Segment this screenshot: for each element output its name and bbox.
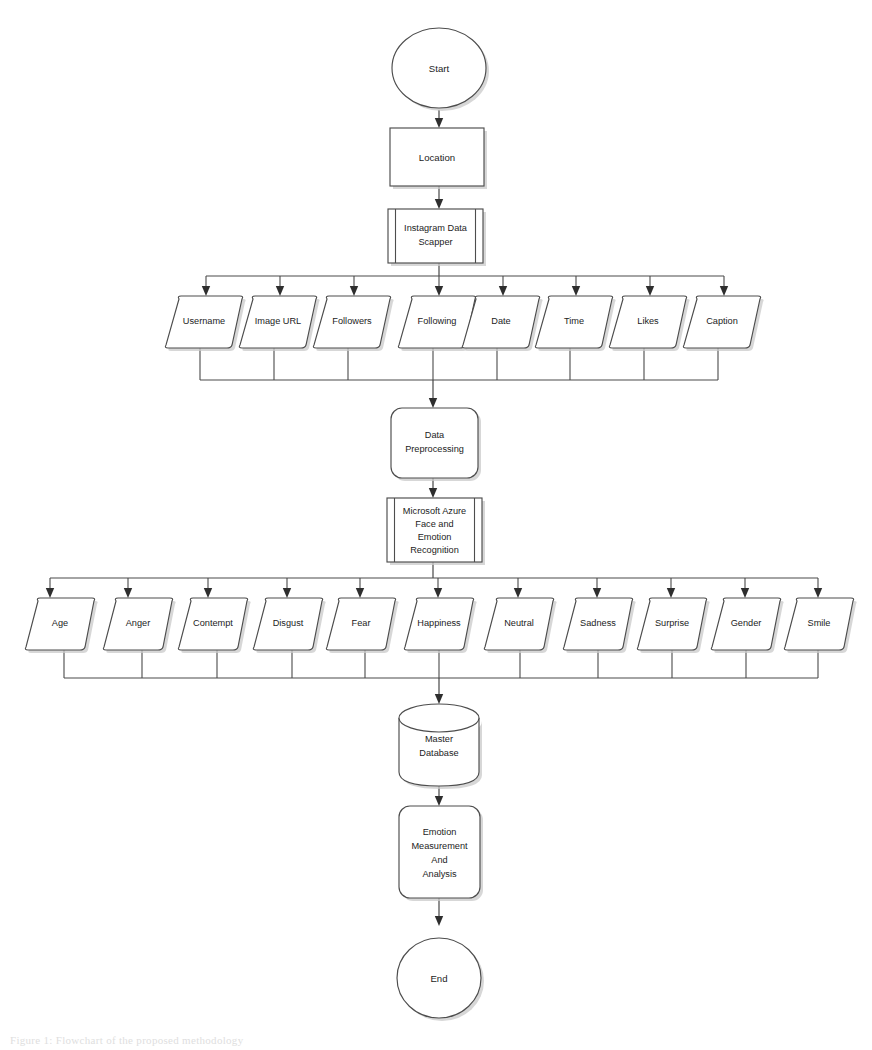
field-node-likes[interactable]: Likes [609, 296, 689, 351]
arrowhead-field-7 [720, 286, 728, 296]
attr-5-label: Happiness [417, 618, 461, 628]
analysis-label-line1: Emotion [423, 827, 457, 837]
attr-node-fear[interactable]: Fear [326, 598, 398, 653]
azure-label-line3: Emotion [418, 532, 452, 542]
attr-0-label: Age [52, 618, 68, 628]
attr-node-smile[interactable]: Smile [784, 598, 856, 653]
attr-node-neutral[interactable]: Neutral [484, 598, 556, 653]
start-label: Start [429, 63, 450, 74]
arrowhead-database [435, 694, 443, 704]
attr-10-label: Smile [808, 618, 831, 628]
arrowhead-location [435, 118, 443, 128]
arrowhead-analysis [435, 796, 443, 806]
analysis-label-line2: Measurement [411, 841, 468, 851]
arrowhead-end [435, 916, 443, 926]
analysis-rect [399, 806, 480, 898]
arrowhead-preprocessing [429, 398, 437, 408]
arrowhead-attr-9 [741, 588, 749, 598]
node-data-preprocessing[interactable]: Data Preprocessing [391, 408, 481, 481]
scrapper-label-line1: Instagram Data [404, 223, 468, 233]
arrowhead-attr-10 [814, 588, 822, 598]
attr-node-age[interactable]: Age [25, 598, 97, 653]
attr-6-label: Neutral [504, 618, 534, 628]
field-7-label: Caption [706, 316, 738, 326]
field-4-label: Date [491, 316, 510, 326]
arrowhead-field-0 [202, 286, 210, 296]
arrowhead-attr-3 [283, 588, 291, 598]
arrowhead-attr-2 [204, 588, 212, 598]
node-start[interactable]: Start [392, 28, 489, 111]
flowchart-canvas: Start Location Instagram Data Scapper Us… [0, 0, 872, 1050]
field-node-image-url[interactable]: Image URL [239, 296, 319, 351]
field-0-label: Username [183, 316, 225, 326]
attr-7-label: Sadness [580, 618, 616, 628]
field-5-label: Time [564, 316, 584, 326]
arrowhead-attr-7 [593, 588, 601, 598]
arrowhead-attr-0 [46, 588, 54, 598]
field-6-label: Likes [637, 316, 659, 326]
arrowhead-attr-5 [434, 588, 442, 598]
node-instagram-scrapper[interactable]: Instagram Data Scapper [388, 209, 486, 266]
database-top-ellipse [399, 704, 479, 732]
attr-2-label: Contempt [193, 618, 233, 628]
attr-node-surprise[interactable]: Surprise [637, 598, 709, 653]
field-node-date[interactable]: Date [462, 296, 542, 351]
attr-1-label: Anger [126, 618, 151, 628]
attr-node-anger[interactable]: Anger [103, 598, 175, 653]
database-label-line2: Database [419, 748, 458, 758]
attr-node-disgust[interactable]: Disgust [253, 598, 325, 653]
figure-caption: Figure 1: Flowchart of the proposed meth… [0, 1034, 872, 1050]
arrowhead-attr-1 [124, 588, 132, 598]
field-2-label: Followers [332, 316, 372, 326]
recognition-attributes-row: Age Anger Contempt Disgust Fear Happines… [25, 598, 856, 653]
arrowhead-attr-8 [667, 588, 675, 598]
analysis-label-line3: And [431, 855, 447, 865]
field-node-time[interactable]: Time [535, 296, 615, 351]
preprocessing-rect [391, 408, 478, 478]
node-master-database[interactable]: Master Database [399, 704, 482, 789]
scraped-fields-row: Username Image URL Followers Following D… [165, 296, 763, 351]
arrowhead-azure [429, 488, 437, 498]
end-label: End [430, 973, 447, 984]
field-node-followers[interactable]: Followers [313, 296, 393, 351]
node-emotion-analysis[interactable]: Emotion Measurement And Analysis [399, 806, 483, 901]
attr-3-label: Disgust [273, 618, 304, 628]
attr-8-label: Surprise [655, 618, 689, 628]
attr-node-contempt[interactable]: Contempt [178, 598, 250, 653]
attr-node-sadness[interactable]: Sadness [563, 598, 635, 653]
arrowhead-field-4 [499, 286, 507, 296]
database-label-line1: Master [425, 734, 453, 744]
arrowhead-field-3 [435, 286, 443, 296]
node-location[interactable]: Location [390, 128, 487, 189]
scrapper-label-line2: Scapper [418, 237, 452, 247]
preprocessing-label-line1: Data [425, 430, 445, 440]
preprocessing-label-line2: Preprocessing [405, 444, 464, 454]
arrowhead-field-5 [572, 286, 580, 296]
attr-node-gender[interactable]: Gender [711, 598, 783, 653]
field-node-caption[interactable]: Caption [683, 296, 763, 351]
arrowhead-field-6 [646, 286, 654, 296]
location-label: Location [419, 152, 455, 163]
attr-4-label: Fear [352, 618, 371, 628]
arrowhead-scrapper [435, 199, 443, 209]
attr-node-happiness[interactable]: Happiness [404, 598, 476, 653]
field-3-label: Following [418, 316, 457, 326]
analysis-label-line4: Analysis [422, 869, 457, 879]
arrowhead-field-2 [350, 286, 358, 296]
scrapper-rect [388, 209, 483, 263]
azure-label-line4: Recognition [410, 545, 459, 555]
arrowhead-attr-4 [356, 588, 364, 598]
field-node-username[interactable]: Username [165, 296, 245, 351]
node-end[interactable]: End [397, 938, 484, 1021]
node-azure-recognition[interactable]: Microsoft Azure Face and Emotion Recogni… [387, 498, 485, 565]
arrowhead-field-1 [276, 286, 284, 296]
arrowhead-attr-6 [514, 588, 522, 598]
field-1-label: Image URL [255, 316, 301, 326]
attr-9-label: Gender [731, 618, 762, 628]
azure-label-line1: Microsoft Azure [403, 506, 466, 516]
azure-label-line2: Face and [415, 519, 453, 529]
